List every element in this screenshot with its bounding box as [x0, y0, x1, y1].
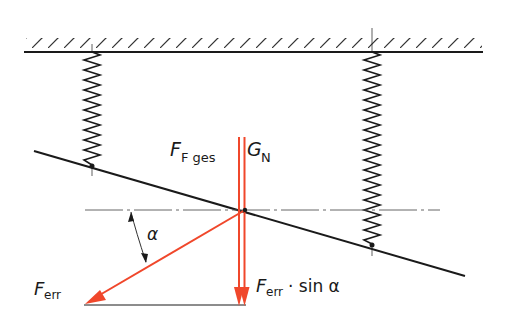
alpha-angle-marker	[128, 212, 148, 263]
left-spring	[84, 52, 100, 165]
ceiling	[24, 38, 483, 52]
alpha-label: α	[147, 224, 158, 244]
pivot-point	[243, 208, 247, 212]
ffges-subscript: F ges	[181, 150, 216, 165]
gn-subscript: N	[261, 150, 271, 165]
ferr-sin-expression: · sin α	[288, 276, 340, 296]
spring-beam-force-diagram: F F ges G N α F err F err · sin α	[0, 0, 514, 322]
ferr-subscript: err	[44, 288, 61, 302]
right-spring	[364, 52, 380, 244]
gn-label: G	[247, 138, 262, 160]
inclined-beam	[34, 151, 465, 276]
ferr-vector-line	[98, 210, 245, 296]
force-vectors	[85, 137, 250, 306]
ferr-sin-subscript: err	[266, 285, 283, 299]
ceiling-hatching	[26, 38, 482, 52]
